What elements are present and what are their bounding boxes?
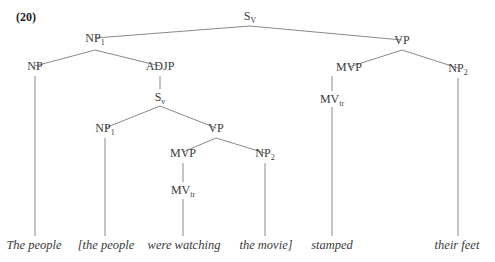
node-np2_right: NP2 bbox=[448, 62, 467, 79]
node-sv_root: SV bbox=[244, 10, 256, 27]
node-subscript: V bbox=[250, 16, 256, 25]
leaf-the-people: The people bbox=[6, 238, 61, 253]
tree-edge bbox=[35, 50, 95, 66]
node-mvp_inner: MVP bbox=[170, 147, 196, 160]
syntax-tree-edges bbox=[0, 0, 495, 262]
node-mvtr_inner: MVtr bbox=[171, 184, 195, 201]
leaf-stamped: stamped bbox=[311, 238, 353, 253]
node-label: MVP bbox=[170, 146, 196, 160]
node-subscript: tr bbox=[339, 99, 344, 108]
node-subscript: tr bbox=[190, 190, 195, 199]
node-np1_inner: NP1 bbox=[95, 122, 114, 139]
example-number: (20) bbox=[16, 10, 36, 25]
node-sv_inner: Sv bbox=[155, 91, 166, 108]
node-mvtr_right: MVtr bbox=[320, 93, 344, 110]
node-adjp: ADJP bbox=[146, 60, 175, 73]
node-label: NP bbox=[448, 61, 463, 75]
node-label: NP bbox=[95, 121, 110, 135]
leaf-their-feet: their feet bbox=[435, 238, 480, 253]
leaf-bracket-the-people: [the people bbox=[78, 238, 135, 253]
node-subscript: 1 bbox=[111, 128, 115, 137]
node-np_left: NP bbox=[27, 60, 42, 73]
node-subscript: v bbox=[161, 97, 165, 106]
leaf-the-movie: the movie] bbox=[239, 238, 292, 253]
node-mvp_right: MVP bbox=[336, 61, 362, 74]
node-label: NP bbox=[27, 59, 42, 73]
node-np1_top: NP1 bbox=[85, 32, 104, 49]
node-subscript: 2 bbox=[271, 153, 275, 162]
node-label: ADJP bbox=[146, 59, 175, 73]
node-label: NP bbox=[85, 31, 100, 45]
node-label: S bbox=[244, 9, 251, 23]
node-label: MV bbox=[171, 183, 190, 197]
node-label: S bbox=[155, 90, 162, 104]
node-np2_inner: NP2 bbox=[255, 147, 274, 164]
node-label: MVP bbox=[336, 60, 362, 74]
node-label: NP bbox=[255, 146, 270, 160]
node-vp_inner: VP bbox=[208, 122, 223, 135]
node-subscript: 2 bbox=[464, 68, 468, 77]
tree-edge bbox=[95, 26, 250, 38]
node-label: VP bbox=[208, 121, 223, 135]
node-label: MV bbox=[320, 92, 339, 106]
leaf-were-watching: were watching bbox=[148, 238, 221, 253]
node-subscript: 1 bbox=[101, 38, 105, 47]
tree-edge bbox=[250, 26, 402, 40]
node-label: VP bbox=[394, 33, 409, 47]
node-vp_top: VP bbox=[394, 34, 409, 47]
